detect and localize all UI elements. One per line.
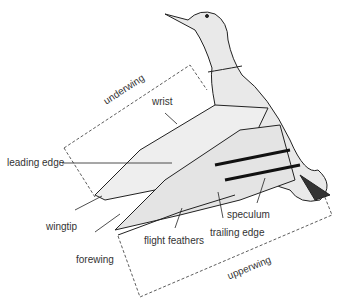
label-wingtip: wingtip (46, 222, 77, 232)
duck-illustration (0, 0, 342, 308)
wing-anatomy-diagram: underwing wrist leading edge wingtip for… (0, 0, 342, 308)
label-forewing: forewing (76, 255, 114, 265)
label-flight-feathers: flight feathers (144, 236, 204, 246)
label-trailing-edge: trailing edge (210, 228, 264, 238)
label-speculum: speculum (227, 210, 270, 220)
label-wrist: wrist (152, 97, 173, 107)
label-leading-edge: leading edge (7, 158, 64, 168)
